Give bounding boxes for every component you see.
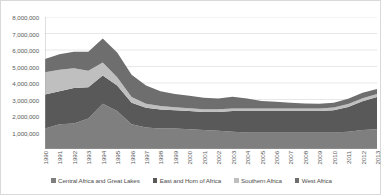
x-axis-tick-label: 1995 — [114, 151, 121, 164]
legend-item[interactable]: East and Horn of Africa — [153, 177, 221, 184]
legend-label: West Africa — [302, 177, 332, 184]
y-axis-tick-label: 3,000,000 — [12, 96, 39, 103]
y-axis-tick-label: 1,000,000 — [12, 129, 39, 136]
x-axis-tick-label: 1997 — [143, 151, 150, 164]
x-axis-tick-label: 1994 — [99, 151, 106, 164]
x-axis-tick-label: 2012 — [359, 151, 366, 164]
legend-swatch-icon — [153, 178, 158, 183]
plot-area — [45, 17, 377, 149]
y-axis-tick-label: 4,000,000 — [12, 80, 39, 87]
y-axis: 1,000,0002,000,0003,000,0004,000,0005,00… — [1, 1, 42, 165]
x-axis-tick-label: 1996 — [128, 151, 135, 164]
x-axis-tick-label: 2013 — [374, 151, 381, 164]
x-axis-tick-label: 2000 — [186, 151, 193, 164]
y-axis-tick-label: 6,000,000 — [12, 47, 39, 54]
x-axis-tick-label: 2011 — [345, 151, 352, 164]
legend-swatch-icon — [295, 178, 300, 183]
chart-legend: Central Africa and Great LakesEast and H… — [1, 177, 381, 184]
legend-item[interactable]: Southern Africa — [234, 177, 282, 184]
x-axis-tick-label: 2003 — [229, 151, 236, 164]
x-axis-tick-label: 2001 — [200, 151, 207, 164]
legend-item[interactable]: Central Africa and Great Lakes — [51, 177, 140, 184]
legend-label: Central Africa and Great Lakes — [58, 177, 140, 184]
x-axis-tick-label: 2006 — [272, 151, 279, 164]
x-axis-tick-label: 1991 — [56, 151, 63, 164]
y-axis-tick-label: 7,000,000 — [12, 30, 39, 37]
legend-swatch-icon — [51, 178, 56, 183]
x-axis-tick-label: 1993 — [85, 151, 92, 164]
x-axis: 1990199119921993199419951996199719981999… — [45, 150, 377, 174]
x-axis-tick-label: 2002 — [215, 151, 222, 164]
x-axis-tick-label: 2010 — [330, 151, 337, 164]
x-axis-tick-label: 2008 — [301, 151, 308, 164]
legend-item[interactable]: West Africa — [295, 177, 332, 184]
x-axis-tick-label: 1992 — [70, 151, 77, 164]
legend-swatch-icon — [234, 178, 239, 183]
y-axis-tick-label: 8,000,000 — [12, 14, 39, 21]
legend-label: Southern Africa — [241, 177, 282, 184]
x-axis-tick-label: 1999 — [171, 151, 178, 164]
x-axis-tick-label: 2004 — [244, 151, 251, 164]
y-axis-tick-label: 2,000,000 — [12, 113, 39, 120]
y-axis-tick-label: 5,000,000 — [12, 63, 39, 70]
x-axis-tick-label: 2005 — [258, 151, 265, 164]
x-axis-tick-label: 2009 — [316, 151, 323, 164]
x-axis-tick-label: 2007 — [287, 151, 294, 164]
chart-container: 1,000,0002,000,0003,000,0004,000,0005,00… — [0, 0, 381, 195]
legend-label: East and Horn of Africa — [160, 177, 221, 184]
stacked-area-svg — [45, 17, 377, 149]
x-axis-tick-label: 1990 — [42, 151, 49, 164]
x-axis-tick-label: 1998 — [157, 151, 164, 164]
